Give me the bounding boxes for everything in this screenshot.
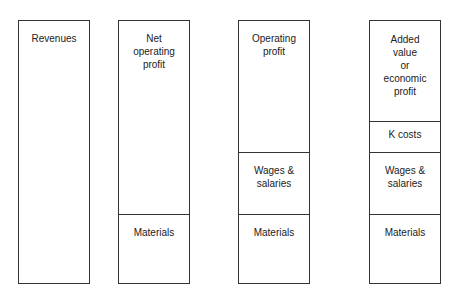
column-operating-profit: Operating profit Wages & salaries Materi…: [238, 20, 310, 284]
segment-revenues: Revenues: [19, 21, 89, 283]
segment-k-costs: K costs: [370, 121, 440, 152]
segment-net-operating-profit: Net operating profit: [119, 21, 189, 214]
segment-label: Added value or economic profit: [370, 21, 440, 98]
segment-label: Materials: [119, 215, 189, 239]
column-added-value: Added value or economic profit K costs W…: [369, 20, 441, 284]
segment-label: Wages & salaries: [370, 153, 440, 190]
segment-wages-salaries: Wages & salaries: [370, 152, 440, 214]
segment-label: Net operating profit: [119, 21, 189, 71]
segment-label: Revenues: [19, 21, 89, 45]
segment-label: Materials: [239, 215, 309, 239]
segment-label: K costs: [370, 122, 440, 141]
segment-label: Operating profit: [239, 21, 309, 58]
column-revenues: Revenues: [18, 20, 90, 284]
segment-materials: Materials: [239, 214, 309, 283]
segment-added-value: Added value or economic profit: [370, 21, 440, 121]
segment-operating-profit: Operating profit: [239, 21, 309, 152]
column-net-operating-profit: Net operating profit Materials: [118, 20, 190, 284]
segment-materials: Materials: [370, 214, 440, 283]
segment-materials: Materials: [119, 214, 189, 283]
segment-label: Wages & salaries: [239, 153, 309, 190]
segment-label: Materials: [370, 215, 440, 239]
segment-wages-salaries: Wages & salaries: [239, 152, 309, 214]
